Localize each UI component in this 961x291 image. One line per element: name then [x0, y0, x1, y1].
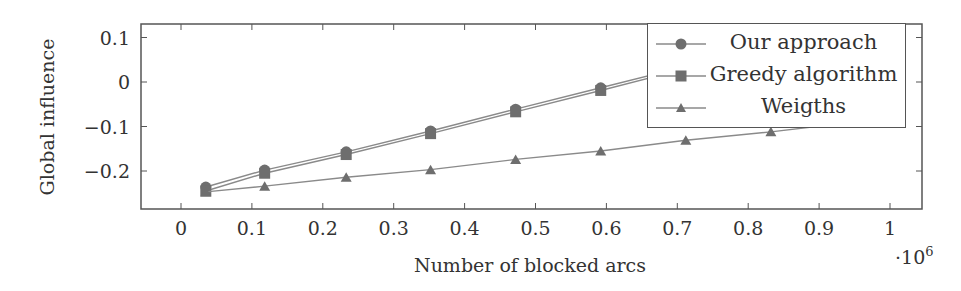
- series-weigths: [200, 117, 860, 196]
- y-axis-label: Global influence: [36, 39, 58, 196]
- legend-label: Weigths: [708, 94, 899, 118]
- x-tick-label: 0.9: [804, 217, 834, 239]
- square-marker-icon: [341, 149, 352, 160]
- circle-marker-icon: [656, 34, 706, 54]
- square-marker-icon: [510, 106, 521, 117]
- legend-label: Our approach: [708, 30, 899, 54]
- square-marker-icon: [259, 168, 270, 179]
- square-marker-icon: [595, 85, 606, 96]
- square-marker-icon: [656, 66, 706, 86]
- legend: Our approach Greedy algorithm Weigths: [647, 23, 906, 128]
- square-marker-icon: [425, 128, 436, 139]
- series-our-approach: [200, 61, 691, 193]
- x-tick-label: 0.2: [308, 217, 338, 239]
- legend-item-our-approach: Our approach: [648, 26, 905, 59]
- triangle-marker-icon: [656, 98, 706, 118]
- x-tick-label: 0.6: [591, 217, 621, 239]
- x-tick-label: 0.8: [733, 217, 763, 239]
- y-tick-label: 0.1: [100, 27, 130, 49]
- x-tick-label: 0: [175, 217, 187, 239]
- x-tick-label: 1: [884, 217, 896, 239]
- x-tick-label: 0.5: [520, 217, 550, 239]
- x-tick-label: 0.7: [662, 217, 692, 239]
- x-tick-label: 0.4: [449, 217, 479, 239]
- y-tick-label: −0.2: [84, 160, 130, 182]
- legend-label: Greedy algorithm: [708, 62, 899, 86]
- legend-item-weigths: Weigths: [648, 90, 905, 123]
- y-tick-label: 0: [118, 71, 130, 93]
- legend-item-greedy-algorithm: Greedy algorithm: [648, 58, 905, 91]
- x-axis-label: Number of blocked arcs: [414, 254, 646, 276]
- x-tick-label: 0.1: [237, 217, 267, 239]
- y-tick-label: −0.1: [84, 116, 130, 138]
- x-tick-label: 0.3: [379, 217, 409, 239]
- x-scale-factor: ·106: [895, 244, 934, 268]
